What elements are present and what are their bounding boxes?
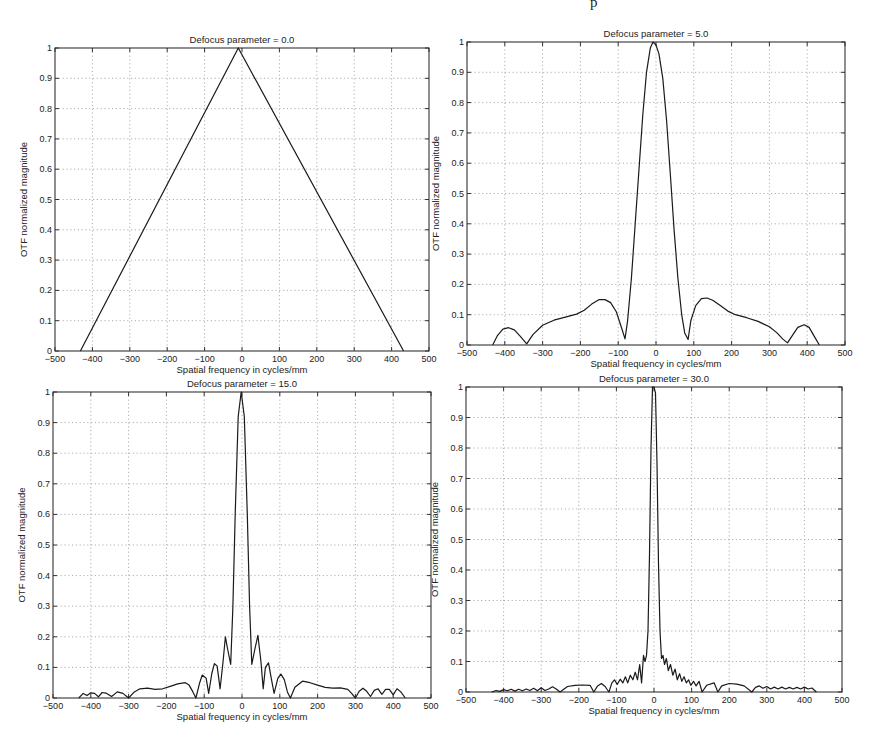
- y-tick-label: 0.3: [450, 596, 463, 606]
- y-tick-label: 0.1: [39, 316, 52, 326]
- chart-panel-1: −500−400−300−200−100010020030040050000.1…: [430, 28, 853, 369]
- x-tick-label: 0: [239, 354, 244, 364]
- y-tick-label: 0.5: [39, 195, 52, 205]
- x-tick-label: 300: [762, 348, 777, 358]
- x-tick-label: 0: [653, 348, 658, 358]
- y-tick-label: 0: [47, 346, 52, 356]
- x-tick-label: 100: [272, 701, 287, 711]
- figure-stage: p −500−400−300−200−100010020030040050000…: [0, 0, 878, 745]
- x-tick-label: −200: [569, 695, 589, 705]
- y-tick-label: 0.8: [450, 443, 463, 453]
- grid-lines: [55, 48, 429, 351]
- x-tick-label: −400: [81, 701, 101, 711]
- x-tick-label: −100: [194, 354, 214, 364]
- x-tick-label: 200: [309, 354, 324, 364]
- x-tick-label: 500: [834, 695, 849, 705]
- x-tick-label: 300: [347, 354, 362, 364]
- x-tick-label: 400: [797, 695, 812, 705]
- x-tick-label: −200: [157, 354, 177, 364]
- chart-panel-0: −500−400−300−200−100010020030040050000.1…: [18, 34, 437, 375]
- x-tick-label: 400: [384, 354, 399, 364]
- x-tick-label: −100: [608, 348, 628, 358]
- y-tick-label: 0.6: [450, 504, 463, 514]
- x-axis-label: Spatial frequency in cycles/mm: [591, 358, 722, 369]
- y-tick-label: 1: [47, 43, 52, 53]
- page-header-fragment: p: [590, 0, 598, 11]
- x-tick-label: −100: [194, 701, 214, 711]
- x-tick-label: −200: [156, 701, 176, 711]
- y-tick-label: 0.3: [39, 255, 52, 265]
- x-tick-label: 500: [423, 701, 438, 711]
- x-tick-label: −300: [531, 695, 551, 705]
- x-tick-label: −200: [570, 348, 590, 358]
- chart-title: Defocus parameter = 0.0: [190, 34, 295, 45]
- y-tick-label: 0.6: [39, 164, 52, 174]
- otf-curve: [493, 42, 820, 345]
- y-tick-label: 1: [45, 387, 50, 397]
- x-tick-label: 300: [348, 701, 363, 711]
- grid-lines: [53, 392, 431, 698]
- x-tick-label: 0: [239, 701, 244, 711]
- axes-box: [467, 42, 845, 345]
- y-tick-label: 0.5: [450, 535, 463, 545]
- y-tick-label: 0.6: [37, 509, 50, 519]
- y-tick-label: 0.7: [451, 128, 464, 138]
- y-tick-label: 0: [45, 693, 50, 703]
- x-tick-label: −300: [118, 701, 138, 711]
- x-tick-label: 200: [724, 348, 739, 358]
- x-tick-label: −400: [82, 354, 102, 364]
- y-tick-label: 0.1: [450, 657, 463, 667]
- y-tick-label: 0.8: [451, 98, 464, 108]
- y-tick-label: 0.7: [39, 134, 52, 144]
- x-tick-label: −400: [493, 695, 513, 705]
- y-tick-label: 0.5: [37, 540, 50, 550]
- x-axis-label: Spatial frequency in cycles/mm: [589, 705, 720, 716]
- chart-title: Defocus parameter = 5.0: [604, 28, 709, 39]
- chart-panel-2: −500−400−300−200−100010020030040050000.1…: [16, 378, 439, 722]
- y-tick-label: 0.2: [451, 279, 464, 289]
- y-tick-label: 0.4: [450, 565, 463, 575]
- x-axis-label: Spatial frequency in cycles/mm: [177, 711, 308, 722]
- otf-defocus-figure: −500−400−300−200−100010020030040050000.1…: [0, 0, 878, 745]
- x-tick-label: 100: [272, 354, 287, 364]
- y-tick-label: 1: [459, 37, 464, 47]
- x-tick-label: 400: [386, 701, 401, 711]
- grid-lines: [466, 387, 842, 692]
- y-tick-label: 0.8: [37, 448, 50, 458]
- y-tick-label: 0: [459, 340, 464, 350]
- y-tick-label: 0.4: [39, 225, 52, 235]
- grid-lines: [467, 42, 845, 345]
- x-tick-label: 400: [800, 348, 815, 358]
- y-tick-label: 1: [458, 382, 463, 392]
- y-axis-label: OTF normalized magnitude: [18, 142, 29, 257]
- y-tick-label: 0.6: [451, 158, 464, 168]
- x-tick-label: −400: [495, 348, 515, 358]
- y-tick-label: 0.2: [37, 632, 50, 642]
- y-tick-label: 0.7: [37, 479, 50, 489]
- x-axis-label: Spatial frequency in cycles/mm: [177, 364, 308, 375]
- y-tick-label: 0.9: [39, 73, 52, 83]
- y-tick-label: 0.9: [37, 418, 50, 428]
- y-tick-label: 0.3: [37, 601, 50, 611]
- x-tick-label: −100: [606, 695, 626, 705]
- x-tick-label: 200: [310, 701, 325, 711]
- y-tick-label: 0.4: [451, 219, 464, 229]
- x-tick-label: 100: [684, 695, 699, 705]
- chart-title: Defocus parameter = 30.0: [599, 373, 709, 384]
- y-axis-label: OTF normalized magnitude: [430, 136, 441, 251]
- x-tick-label: −300: [532, 348, 552, 358]
- y-axis-label: OTF normalized magnitude: [16, 487, 27, 602]
- y-tick-label: 0.1: [451, 310, 464, 320]
- y-tick-label: 0: [458, 687, 463, 697]
- y-tick-label: 0.9: [451, 67, 464, 77]
- chart-title: Defocus parameter = 15.0: [187, 378, 297, 389]
- x-tick-label: 0: [651, 695, 656, 705]
- x-tick-label: 500: [837, 348, 852, 358]
- y-tick-label: 0.3: [451, 249, 464, 259]
- x-tick-label: 300: [759, 695, 774, 705]
- y-tick-label: 0.4: [37, 571, 50, 581]
- y-axis-label: OTF normalized magnitude: [429, 482, 440, 597]
- x-tick-label: −300: [120, 354, 140, 364]
- x-tick-label: 500: [421, 354, 436, 364]
- y-tick-label: 0.2: [450, 626, 463, 636]
